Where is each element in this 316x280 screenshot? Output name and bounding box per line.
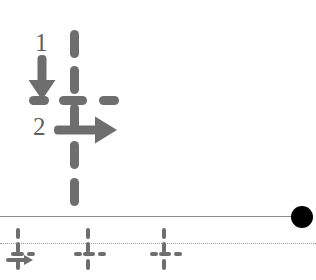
crosshair-small-2	[74, 228, 108, 274]
step-label-1: 1	[35, 30, 48, 55]
crosshair-dash-vertical	[162, 259, 166, 270]
crosshair-dash-vertical	[70, 30, 79, 58]
ground-line	[0, 216, 295, 217]
crosshair-dash-horizontal	[99, 96, 119, 105]
crosshair-dash-horizontal	[174, 252, 182, 256]
crosshair-dash-vertical	[162, 228, 166, 239]
crosshair-dash-vertical	[86, 228, 90, 239]
step-label-2: 2	[33, 114, 46, 139]
arrow-right-icon	[6, 254, 34, 266]
crosshair-small-1	[4, 228, 38, 274]
crosshair-dash-horizontal	[59, 96, 87, 105]
crosshair-dash-vertical	[70, 178, 79, 206]
crosshair-icon: 1 2	[0, 0, 160, 210]
crosshair-dash-vertical	[70, 141, 79, 169]
crosshair-dash-horizontal	[159, 252, 171, 256]
crosshair-dash-horizontal	[83, 252, 95, 256]
diagram-canvas: 1 2	[0, 0, 316, 280]
crosshair-dash-horizontal	[98, 252, 106, 256]
crosshair-dash-horizontal	[74, 252, 82, 256]
crosshair-dash-horizontal	[150, 252, 158, 256]
arrow-down-icon	[27, 55, 57, 101]
crosshair-dash-vertical	[86, 259, 90, 270]
crosshair-dash-vertical	[16, 228, 20, 239]
crosshair-dash-vertical	[70, 66, 79, 94]
crosshair-small-3	[150, 228, 184, 274]
filled-circle-icon[interactable]	[291, 206, 313, 228]
arrow-right-icon	[54, 115, 118, 145]
